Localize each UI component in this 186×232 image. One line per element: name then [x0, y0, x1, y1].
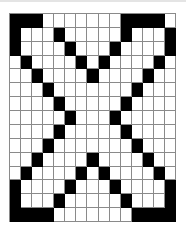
grid-cell-r5-c2[interactable] — [32, 83, 43, 97]
grid-cell-r4-c0[interactable] — [10, 69, 21, 83]
grid-cell-r6-c11[interactable] — [132, 97, 143, 111]
grid-cell-r9-c1[interactable] — [21, 139, 32, 153]
grid-cell-r1-c8[interactable] — [99, 28, 110, 42]
grid-cell-r6-c10[interactable] — [121, 97, 132, 111]
grid-cell-r4-c12[interactable] — [143, 69, 154, 83]
grid-cell-r1-c2[interactable] — [32, 28, 43, 42]
grid-cell-r5-c13[interactable] — [154, 83, 165, 97]
grid-cell-r9-c5[interactable] — [65, 139, 76, 153]
grid-cell-r4-c1[interactable] — [21, 69, 32, 83]
grid-cell-r9-c13[interactable] — [154, 139, 165, 153]
grid-cell-r3-c9[interactable] — [110, 56, 121, 70]
grid-cell-r2-c13[interactable] — [154, 42, 165, 56]
grid-cell-r13-c1[interactable] — [21, 194, 32, 208]
grid-cell-r13-c2[interactable] — [32, 194, 43, 208]
grid-cell-r7-c7[interactable] — [87, 111, 98, 125]
grid-cell-r4-c4[interactable] — [54, 69, 65, 83]
grid-cell-r13-c12[interactable] — [143, 194, 154, 208]
grid-cell-r6-c14[interactable] — [165, 97, 176, 111]
grid-cell-r3-c0[interactable] — [10, 56, 21, 70]
grid-cell-r9-c2[interactable] — [32, 139, 43, 153]
grid-cell-r7-c13[interactable] — [154, 111, 165, 125]
grid-cell-r10-c1[interactable] — [21, 153, 32, 167]
grid-cell-r11-c3[interactable] — [43, 167, 54, 181]
grid-cell-r2-c1[interactable] — [21, 42, 32, 56]
grid-cell-r13-c8[interactable] — [99, 194, 110, 208]
grid-cell-r3-c5[interactable] — [65, 56, 76, 70]
grid-cell-r14-c5[interactable] — [65, 208, 76, 222]
grid-cell-r9-c9[interactable] — [110, 139, 121, 153]
grid-cell-r6-c0[interactable] — [10, 97, 21, 111]
grid-cell-r10-c14[interactable] — [165, 153, 176, 167]
grid-cell-r3-c14[interactable] — [165, 56, 176, 70]
grid-cell-r2-c10[interactable] — [121, 42, 132, 56]
grid-cell-r4-c2[interactable] — [32, 69, 43, 83]
grid-cell-r0-c14[interactable] — [165, 14, 176, 28]
grid-cell-r9-c10[interactable] — [121, 139, 132, 153]
grid-cell-r10-c4[interactable] — [54, 153, 65, 167]
grid-cell-r1-c7[interactable] — [87, 28, 98, 42]
grid-cell-r5-c5[interactable] — [65, 83, 76, 97]
grid-cell-r1-c14[interactable] — [165, 28, 176, 42]
grid-cell-r3-c7[interactable] — [87, 56, 98, 70]
grid-cell-r12-c8[interactable] — [99, 180, 110, 194]
grid-cell-r0-c11[interactable] — [132, 14, 143, 28]
grid-cell-r8-c11[interactable] — [132, 125, 143, 139]
grid-cell-r0-c6[interactable] — [76, 14, 87, 28]
grid-cell-r12-c12[interactable] — [143, 180, 154, 194]
grid-cell-r12-c11[interactable] — [132, 180, 143, 194]
grid-cell-r4-c14[interactable] — [165, 69, 176, 83]
grid-cell-r2-c12[interactable] — [143, 42, 154, 56]
grid-cell-r12-c9[interactable] — [110, 180, 121, 194]
grid-cell-r8-c13[interactable] — [154, 125, 165, 139]
grid-cell-r1-c9[interactable] — [110, 28, 121, 42]
grid-cell-r5-c8[interactable] — [99, 83, 110, 97]
grid-cell-r11-c13[interactable] — [154, 167, 165, 181]
grid-cell-r10-c10[interactable] — [121, 153, 132, 167]
grid-cell-r7-c14[interactable] — [165, 111, 176, 125]
grid-cell-r12-c14[interactable] — [165, 180, 176, 194]
grid-cell-r8-c9[interactable] — [110, 125, 121, 139]
grid-cell-r10-c12[interactable] — [143, 153, 154, 167]
grid-cell-r9-c3[interactable] — [43, 139, 54, 153]
grid-cell-r9-c14[interactable] — [165, 139, 176, 153]
grid-cell-r5-c4[interactable] — [54, 83, 65, 97]
grid-cell-r8-c12[interactable] — [143, 125, 154, 139]
grid-cell-r2-c6[interactable] — [76, 42, 87, 56]
grid-cell-r7-c9[interactable] — [110, 111, 121, 125]
grid-cell-r4-c5[interactable] — [65, 69, 76, 83]
grid-cell-r6-c5[interactable] — [65, 97, 76, 111]
grid-cell-r11-c8[interactable] — [99, 167, 110, 181]
grid-cell-r12-c5[interactable] — [65, 180, 76, 194]
grid-cell-r9-c12[interactable] — [143, 139, 154, 153]
grid-cell-r0-c10[interactable] — [121, 14, 132, 28]
grid-cell-r1-c6[interactable] — [76, 28, 87, 42]
grid-cell-r14-c4[interactable] — [54, 208, 65, 222]
grid-cell-r12-c7[interactable] — [87, 180, 98, 194]
grid-cell-r10-c6[interactable] — [76, 153, 87, 167]
grid-cell-r13-c13[interactable] — [154, 194, 165, 208]
grid-cell-r2-c5[interactable] — [65, 42, 76, 56]
grid-cell-r0-c3[interactable] — [43, 14, 54, 28]
grid-cell-r2-c8[interactable] — [99, 42, 110, 56]
grid-cell-r13-c7[interactable] — [87, 194, 98, 208]
grid-cell-r13-c11[interactable] — [132, 194, 143, 208]
grid-cell-r3-c12[interactable] — [143, 56, 154, 70]
grid-cell-r7-c6[interactable] — [76, 111, 87, 125]
grid-cell-r11-c10[interactable] — [121, 167, 132, 181]
grid-cell-r8-c14[interactable] — [165, 125, 176, 139]
grid-cell-r6-c8[interactable] — [99, 97, 110, 111]
grid-cell-r11-c2[interactable] — [32, 167, 43, 181]
grid-cell-r6-c12[interactable] — [143, 97, 154, 111]
grid-cell-r14-c1[interactable] — [21, 208, 32, 222]
grid-cell-r13-c14[interactable] — [165, 194, 176, 208]
grid-cell-r10-c2[interactable] — [32, 153, 43, 167]
grid-cell-r8-c7[interactable] — [87, 125, 98, 139]
grid-cell-r4-c13[interactable] — [154, 69, 165, 83]
grid-cell-r8-c4[interactable] — [54, 125, 65, 139]
grid-cell-r1-c12[interactable] — [143, 28, 154, 42]
grid-cell-r12-c4[interactable] — [54, 180, 65, 194]
grid-cell-r5-c12[interactable] — [143, 83, 154, 97]
grid-cell-r0-c2[interactable] — [32, 14, 43, 28]
grid-cell-r11-c9[interactable] — [110, 167, 121, 181]
